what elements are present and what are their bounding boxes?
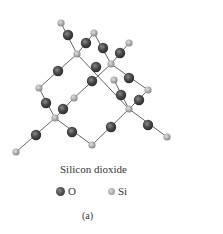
silicon-atom (163, 133, 170, 140)
silicon-atom (70, 94, 77, 101)
bond (77, 54, 129, 109)
panel-label: (a) (82, 210, 93, 221)
silicon-atom (57, 19, 64, 26)
legend-oxygen-label: O (68, 185, 76, 197)
silicon-atom (35, 84, 42, 91)
silicon-dioxide-structure (0, 0, 223, 234)
figure-title: Silicon dioxide (60, 163, 127, 175)
legend-silicon: Si (108, 185, 127, 197)
silicon-atom (12, 148, 19, 155)
oxygen-atom (124, 73, 134, 83)
oxygen-atom (143, 120, 153, 130)
silicon-atom (110, 76, 117, 83)
legend-oxygen: O (56, 185, 76, 197)
oxygen-atom (67, 127, 77, 137)
oxygen-atom (81, 38, 91, 48)
silicon-atom (144, 86, 151, 93)
oxygen-atom (31, 130, 41, 140)
oxygen-atom (98, 43, 108, 53)
oxygen-atom (87, 76, 97, 86)
silicon-atom (125, 105, 132, 112)
oxygen-atom (134, 95, 144, 105)
oxygen-atom (58, 104, 68, 114)
oxygen-atom (63, 30, 73, 40)
oxygen-atom (91, 62, 101, 72)
silicon-atom (90, 29, 97, 36)
silicon-swatch-icon (108, 188, 115, 195)
oxygen-atom (115, 48, 125, 58)
silicon-atom (88, 141, 95, 148)
legend-silicon-label: Si (118, 185, 127, 197)
oxygen-atom (116, 90, 126, 100)
oxygen-atom (106, 122, 116, 132)
silicon-atom (125, 39, 132, 46)
oxygen-atom (53, 66, 63, 76)
oxygen-atom (41, 98, 51, 108)
silicon-atom (73, 50, 80, 57)
silicon-atom (51, 114, 58, 121)
oxygen-swatch-icon (56, 187, 65, 196)
silicon-atom (107, 60, 114, 67)
